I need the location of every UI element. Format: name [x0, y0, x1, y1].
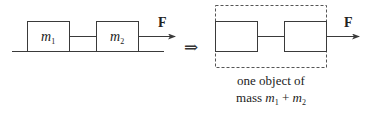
block-m2-label: m: [110, 29, 120, 44]
block-m1-subscript: 1: [51, 37, 55, 46]
caption-plus: +: [279, 90, 293, 105]
left-system: m1 m2 F: [12, 15, 175, 52]
caption-line-1: one object of: [237, 73, 306, 88]
two-blocks-diagram: m1 m2 F ⇒ F one object of mass m1 + m2: [0, 0, 370, 114]
caption-line-2: mass m1 + m2: [236, 90, 306, 107]
block-m2-subscript: 2: [120, 37, 124, 46]
implies-arrow-icon: ⇒: [184, 37, 198, 57]
svg-text:m1: m1: [41, 29, 55, 46]
block-m1-label: m: [41, 29, 51, 44]
combined-block-2: [285, 22, 327, 52]
caption-mass-word: mass: [236, 90, 265, 105]
caption-m2-sub: 2: [302, 98, 306, 107]
caption-m2: m: [293, 90, 302, 105]
caption-m1: m: [265, 90, 274, 105]
force-label-right: F: [344, 15, 353, 30]
svg-text:m2: m2: [110, 29, 124, 46]
right-system: F one object of mass m1 + m2: [216, 6, 360, 108]
combined-block-1: [216, 22, 258, 52]
force-label-left: F: [158, 15, 167, 30]
